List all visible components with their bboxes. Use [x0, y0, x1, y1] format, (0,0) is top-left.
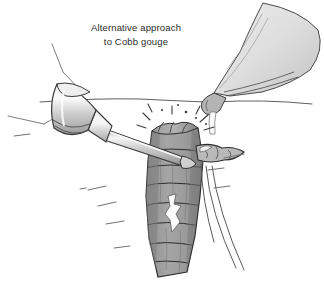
caption-line-2: to Cobb gouge: [104, 36, 168, 47]
surgical-illustration: Alternative approach to Cobb gouge: [0, 0, 324, 284]
retractor-highlight-strip: [209, 112, 216, 134]
caption-line-1: Alternative approach: [91, 22, 181, 33]
